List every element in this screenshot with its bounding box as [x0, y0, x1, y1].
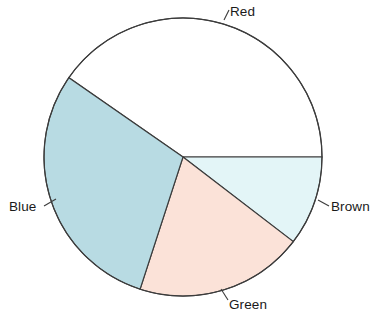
leader-line-green [221, 289, 228, 300]
pie-label-green: Green [229, 298, 267, 312]
pie-chart-svg [0, 0, 372, 319]
pie-label-brown: Brown [331, 200, 370, 214]
pie-slices [44, 18, 322, 296]
leader-line-brown [318, 200, 329, 206]
pie-label-red: Red [230, 5, 255, 19]
pie-chart-figure: Red Brown Green Blue [0, 0, 372, 319]
pie-label-blue: Blue [9, 200, 36, 214]
leader-line-red [224, 10, 229, 20]
